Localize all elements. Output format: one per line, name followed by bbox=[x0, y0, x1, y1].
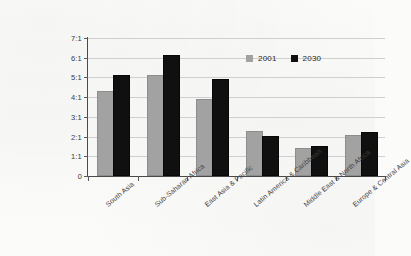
y-axis-tick-label: 3:1 bbox=[71, 112, 82, 121]
bar-2030-latin-america-caribbean bbox=[262, 136, 279, 176]
plot-area: 01:12:13:14:15:16:17:1 South AsiaSub-Sah… bbox=[88, 38, 385, 176]
y-axis-tick-label: 6:1 bbox=[71, 53, 82, 62]
bar-group bbox=[138, 38, 188, 176]
legend-swatch-icon bbox=[246, 55, 253, 62]
bar-group bbox=[187, 38, 237, 176]
bar-2001-south-asia bbox=[97, 91, 114, 176]
y-axis-tick-label: 2:1 bbox=[71, 132, 82, 141]
bar-2030-sub-saharan-africa bbox=[163, 55, 180, 176]
y-axis-tick-label: 4:1 bbox=[71, 93, 82, 102]
y-axis-tick-label: 5:1 bbox=[71, 73, 82, 82]
y-axis-tick-label: 1:1 bbox=[71, 152, 82, 161]
grouped-bar-chart: 01:12:13:14:15:16:17:1 South AsiaSub-Sah… bbox=[40, 16, 335, 240]
legend-item-2001: 2001 bbox=[246, 54, 277, 63]
bar-2030-south-asia bbox=[113, 75, 130, 176]
chart-legend: 20012030 bbox=[246, 54, 321, 63]
x-axis-category-label: South Asia bbox=[104, 180, 135, 208]
bar-2030-east-asia-pacific bbox=[212, 79, 229, 176]
bar-2001-sub-saharan-africa bbox=[147, 75, 164, 176]
y-axis-tick-label: 0 bbox=[78, 172, 82, 181]
legend-label: 2001 bbox=[258, 54, 277, 63]
y-axis-tick-label: 7:1 bbox=[71, 34, 82, 43]
bar-group bbox=[88, 38, 138, 176]
x-axis-tick bbox=[88, 176, 89, 181]
legend-item-2030: 2030 bbox=[291, 54, 322, 63]
legend-label: 2030 bbox=[303, 54, 322, 63]
x-axis-tick bbox=[138, 176, 139, 181]
legend-swatch-icon bbox=[291, 55, 298, 62]
